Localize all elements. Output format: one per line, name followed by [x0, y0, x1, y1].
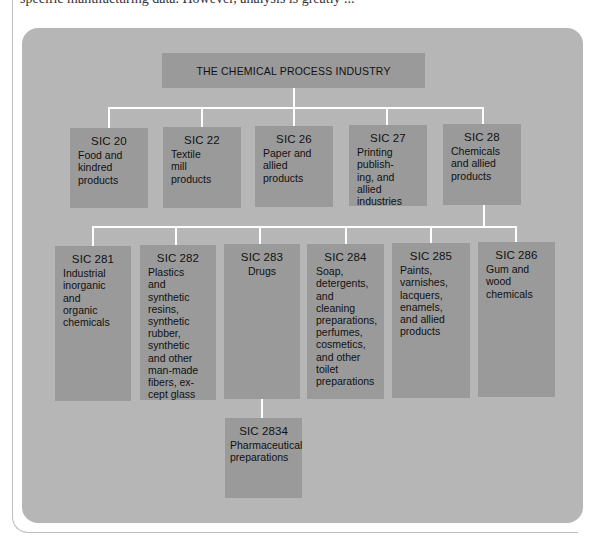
node-code: SIC 284 [307, 251, 384, 263]
connector-sic2834 [261, 399, 263, 418]
node-sic-28: SIC 28 Chemicals and allied products [443, 124, 521, 205]
node-description: Gum and wood chemicals [478, 263, 555, 300]
connector-sic28-down [483, 205, 485, 227]
node-code: SIC 286 [478, 249, 555, 261]
connector-root-down [293, 88, 295, 109]
node-description: Pharmaceutical preparations [225, 439, 302, 463]
node-sic-2834: SIC 2834 Pharmaceutical preparations [225, 418, 302, 498]
node-code: SIC 27 [349, 132, 427, 144]
connector-sic26 [293, 107, 295, 126]
connector-sic283 [259, 226, 261, 244]
connector-sic285 [430, 226, 432, 244]
node-sic-283: SIC 283 Drugs [224, 244, 300, 399]
node-sic-26: SIC 26 Paper and allied products [255, 126, 333, 207]
node-code: SIC 2834 [225, 425, 302, 437]
node-sic-284: SIC 284 Soap, detergents, and cleaning p… [307, 244, 384, 399]
node-description: Food and kindred products [70, 149, 148, 186]
connector-sic281 [92, 226, 94, 246]
node-description: Industrial inorganic and organic chemica… [55, 267, 131, 328]
connector-sic27 [386, 107, 388, 125]
node-sic-27: SIC 27 Printing publish- ing, and allied… [349, 125, 427, 206]
connector-level1-bus [108, 107, 484, 109]
node-code: SIC 22 [163, 134, 241, 146]
node-sic-281: SIC 281 Industrial inorganic and organic… [55, 246, 131, 401]
node-description: Soap, detergents, and cleaning preparati… [307, 265, 384, 387]
node-description: Chemicals and allied products [443, 145, 521, 182]
node-description: Plastics and synthetic resins, synthetic… [140, 266, 216, 400]
connector-sic28 [482, 107, 484, 124]
node-code: SIC 283 [224, 251, 300, 263]
node-sic-285: SIC 285 Paints, varnishes, lacquers, ena… [392, 243, 470, 398]
node-sic-22: SIC 22 Textile mill products [163, 127, 241, 208]
connector-level2-bus [92, 226, 517, 228]
connector-sic20 [108, 107, 110, 128]
node-code: SIC 285 [392, 250, 470, 262]
node-code: SIC 26 [255, 133, 333, 145]
connector-sic22 [201, 107, 203, 127]
connector-sic284 [345, 226, 347, 245]
node-description: Paper and allied products [255, 147, 333, 184]
root-node-label: THE CHEMICAL PROCESS INDUSTRY [196, 65, 390, 77]
node-code: SIC 281 [55, 253, 131, 265]
node-description: Drugs [224, 265, 300, 277]
node-sic-286: SIC 286 Gum and wood chemicals [478, 242, 555, 397]
node-description: Textile mill products [163, 148, 241, 185]
node-description: Paints, varnishes, lacquers, enamels, an… [392, 264, 470, 337]
connector-sic286 [515, 226, 517, 242]
node-sic-282: SIC 282 Plastics and synthetic resins, s… [140, 245, 216, 400]
root-node: THE CHEMICAL PROCESS INDUSTRY [162, 53, 425, 88]
node-description: Printing publish- ing, and allied indust… [349, 146, 427, 207]
node-code: SIC 282 [140, 252, 216, 264]
connector-sic282 [175, 226, 177, 245]
node-code: SIC 20 [70, 135, 148, 147]
node-code: SIC 28 [443, 131, 521, 143]
node-sic-20: SIC 20 Food and kindred products [70, 128, 148, 208]
